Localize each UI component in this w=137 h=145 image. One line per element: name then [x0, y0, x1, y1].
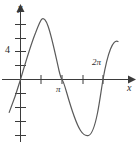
x-tick-label-pi: π — [56, 85, 61, 94]
sine-curve-figure: y x 4 π 2π — [0, 0, 137, 145]
x-tick-label-2pi: 2π — [92, 58, 101, 67]
y-tick-label-4: 4 — [5, 45, 10, 55]
sine-curve — [9, 19, 118, 136]
y-axis-label: y — [18, 3, 22, 13]
x-axis-label: x — [127, 83, 131, 93]
plot-area — [0, 0, 137, 145]
